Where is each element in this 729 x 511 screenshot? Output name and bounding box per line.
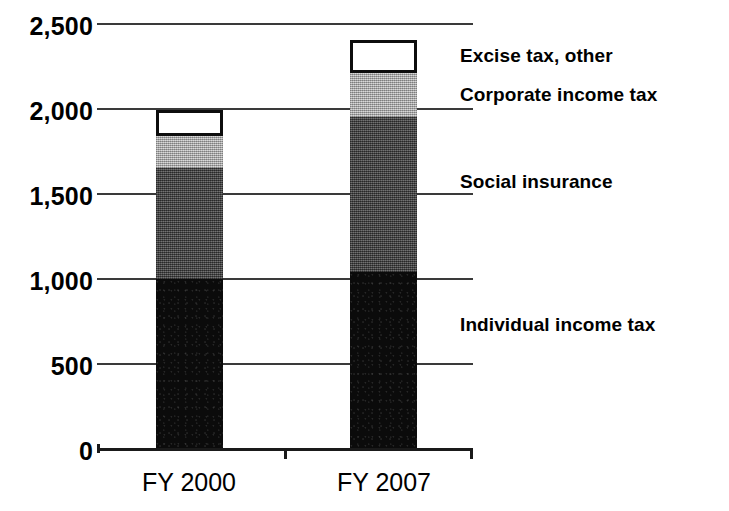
x-tick-label-fy-2000: FY 2000	[89, 470, 289, 495]
y-tick-label-0: 0	[0, 439, 93, 464]
series-label-excise-tax-other: Excise tax, other	[460, 46, 613, 65]
bar-segment-excise-tax-other-fy2000	[156, 110, 223, 136]
series-label-individual-income-tax: Individual income tax	[460, 315, 655, 334]
bar-segment-social-insurance-fy2007	[350, 117, 417, 272]
y-tick-label-500: 500	[0, 354, 93, 379]
bar-segment-corporate-income-tax-fy2000	[156, 135, 223, 168]
x-axis-tick-middle	[284, 448, 287, 459]
bar-segment-individual-income-tax-fy2007	[350, 272, 417, 449]
y-tick-label-2500: 2,500	[0, 14, 93, 39]
x-axis-tick-right	[470, 448, 473, 459]
gridline-2500	[97, 23, 473, 25]
bar-segment-social-insurance-fy2000	[156, 168, 223, 279]
series-label-social-insurance: Social insurance	[460, 172, 613, 191]
bar-segment-excise-tax-other-fy2007	[350, 40, 417, 73]
x-axis-tick-left	[97, 444, 100, 453]
stacked-bar-chart: 2,500 2,000 1,500 1,000 500 0 Excise tax…	[0, 0, 729, 511]
y-tick-label-2000: 2,000	[0, 99, 93, 124]
bar-segment-individual-income-tax-fy2000	[156, 279, 223, 449]
y-tick-label-1000: 1,000	[0, 269, 93, 294]
bar-segment-corporate-income-tax-fy2007	[350, 72, 417, 117]
series-label-corporate-income-tax: Corporate income tax	[460, 85, 657, 104]
x-tick-label-fy-2007: FY 2007	[284, 470, 484, 495]
y-tick-label-1500: 1,500	[0, 184, 93, 209]
